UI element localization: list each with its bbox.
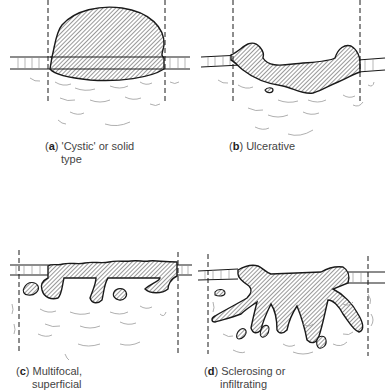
tumour-mass — [50, 7, 164, 80]
stroma-texture — [30, 78, 179, 126]
panel-c-multifocal-superficial: (c) Multifocal, superficial — [0, 194, 193, 388]
tumour-nest — [317, 336, 327, 348]
panel-b-ulcerative: (b) Ulcerative — [193, 0, 386, 194]
tumour-fragment — [265, 88, 273, 93]
panel-a-cystic-solid: (a) 'Cystic' or solid type — [0, 0, 193, 194]
caption-c: (c) Multifocal, superficial — [16, 365, 82, 391]
ulcer-tumour — [231, 43, 360, 93]
caption-a: (a) 'Cystic' or solid type — [45, 140, 134, 166]
multifocal-illustration — [0, 194, 193, 388]
superficial-tumour-band — [41, 261, 177, 303]
panel-d-sclerosing-infiltrating: (d) Sclerosing or infiltrating — [193, 194, 386, 388]
tumour-nest — [215, 289, 225, 296]
tumour-nest — [237, 329, 247, 339]
tumour-nest — [113, 289, 126, 301]
tumour-nest — [23, 283, 38, 296]
stroma-texture — [12, 304, 166, 360]
infiltrating-tumour — [212, 265, 363, 342]
caption-d: (d) Sclerosing or infiltrating — [204, 365, 285, 391]
ulcerative-illustration — [193, 0, 386, 194]
caption-b: (b) Ulcerative — [229, 140, 295, 153]
sclerosing-illustration — [193, 194, 386, 388]
